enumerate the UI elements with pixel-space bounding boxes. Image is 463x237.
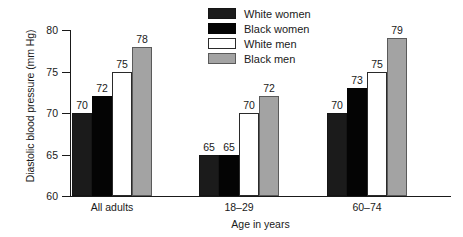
y-axis-tick-label: 70 (36, 108, 58, 118)
y-axis-tick-label-text: 65 (36, 150, 58, 160)
x-axis-line (70, 196, 451, 197)
x-axis-category-label: All adults (52, 201, 172, 213)
bar (199, 155, 219, 197)
x-axis-category-label: 18–29 (179, 201, 299, 213)
x-axis-title: Age in years (70, 218, 451, 230)
y-axis-tick-label-text: 60 (36, 191, 58, 201)
legend-swatch-icon (208, 53, 236, 64)
legend: White womenBlack womenWhite menBlack men (208, 6, 311, 66)
x-axis-category-label: 60–74 (307, 201, 427, 213)
bar (327, 113, 347, 196)
legend-item: Black men (208, 51, 311, 66)
y-axis-tick-label-text: 70 (36, 108, 58, 118)
y-axis-tick-label: 75 (36, 67, 58, 77)
y-axis-tick-label-text: 75 (36, 67, 58, 77)
bar (239, 113, 259, 196)
bar-chart-figure: Diastolic blood pressure (mm Hg) 6065707… (0, 0, 463, 237)
bar (219, 155, 239, 197)
legend-item-label: Black women (244, 23, 309, 35)
legend-item-label: Black men (244, 53, 295, 65)
legend-swatch-icon (208, 38, 236, 49)
y-axis-title: Diastolic blood pressure (mm Hg) (24, 6, 36, 206)
legend-swatch-icon (208, 8, 236, 19)
legend-item: White women (208, 6, 311, 21)
y-axis-tick-label-text: 80 (36, 25, 58, 35)
legend-item: White men (208, 36, 311, 51)
legend-item-label: White men (244, 38, 297, 50)
bar (132, 47, 152, 196)
bar (259, 96, 279, 196)
bar-value-label: 79 (381, 25, 413, 36)
y-axis-tick (62, 196, 71, 197)
legend-item-label: White women (244, 8, 311, 20)
legend-swatch-icon (208, 23, 236, 34)
bar-value-label: 78 (126, 34, 158, 45)
bar (112, 72, 132, 197)
y-axis-tick-label: 60 (36, 191, 58, 201)
bar (72, 113, 92, 196)
bar (92, 96, 112, 196)
y-axis-tick-label: 65 (36, 150, 58, 160)
bar (367, 72, 387, 197)
bar-value-label: 72 (253, 83, 285, 94)
y-axis-tick-label: 80 (36, 25, 58, 35)
bar (347, 88, 367, 196)
bar (387, 38, 407, 196)
legend-item: Black women (208, 21, 311, 36)
